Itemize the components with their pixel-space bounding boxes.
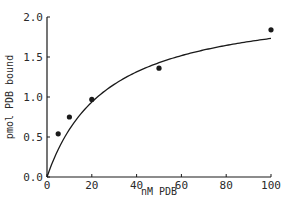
data-points	[56, 27, 274, 136]
data-point	[56, 131, 61, 136]
y-axis-label: pmol PDB bound	[4, 55, 15, 139]
data-point	[156, 66, 161, 71]
ticks: 0204060801000.00.51.01.52.0	[23, 11, 281, 192]
y-tick-label: 0.5	[23, 131, 43, 144]
data-point	[268, 27, 273, 32]
y-tick-label: 1.0	[23, 91, 43, 104]
x-axis-label: nM PDB	[141, 186, 177, 197]
y-tick-label: 1.5	[23, 51, 43, 64]
data-point	[89, 97, 94, 102]
fit-curve	[47, 38, 271, 177]
data-point	[67, 114, 72, 119]
x-tick-label: 0	[44, 179, 51, 192]
axes	[47, 17, 271, 177]
binding-chart: 0204060801000.00.51.01.52.0 nM PDB pmol …	[0, 0, 292, 209]
fit-curve-path	[47, 38, 271, 177]
x-tick-label: 20	[85, 179, 98, 192]
x-tick-label: 100	[261, 179, 281, 192]
y-tick-label: 2.0	[23, 11, 43, 24]
x-tick-label: 80	[220, 179, 233, 192]
y-tick-label: 0.0	[23, 171, 43, 184]
